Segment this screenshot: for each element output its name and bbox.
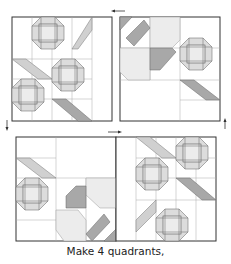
snowball-block <box>52 59 84 91</box>
quadrant-bottom-left <box>16 137 116 241</box>
snowball-block <box>136 158 168 190</box>
arrow-up-icon <box>224 118 227 129</box>
arrow-down-icon <box>6 120 9 131</box>
snowball-block <box>32 17 64 49</box>
snowball-block <box>16 178 48 210</box>
quadrant-top-right <box>120 17 220 121</box>
quadrant-top-left <box>12 17 112 121</box>
quadrant-bottom-right <box>116 137 216 241</box>
figure-caption: Make 4 quadrants, <box>0 245 231 257</box>
quilt-quadrants-diagram <box>0 0 231 264</box>
arrow-left-icon <box>111 10 125 13</box>
snowball-block <box>176 137 208 169</box>
arrow-right-icon <box>108 131 122 134</box>
snowball-block <box>12 79 44 111</box>
snowball-block <box>180 38 212 70</box>
snowball-block <box>156 209 188 241</box>
